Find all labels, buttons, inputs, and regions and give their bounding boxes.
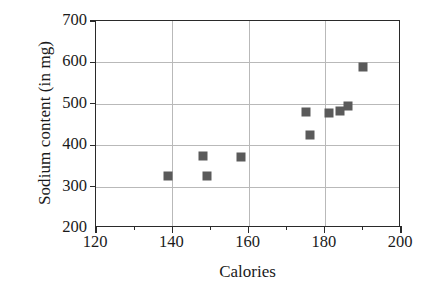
plot-area (95, 20, 400, 227)
x-axis-tick-label: 180 (311, 234, 336, 251)
data-point (358, 63, 367, 72)
x-axis-minor-tick (362, 226, 363, 230)
y-axis-tick-label: 400 (0, 136, 95, 153)
data-point (301, 108, 310, 117)
y-axis-tick-label: 700 (0, 12, 95, 29)
x-gridline (325, 21, 326, 226)
y-gridline (96, 187, 399, 188)
data-point (198, 151, 207, 160)
data-point (236, 152, 245, 161)
x-axis-minor-tick (134, 226, 135, 230)
data-point (305, 130, 314, 139)
x-gridline (172, 21, 173, 226)
y-gridline (96, 104, 399, 105)
scatter-plot-figure: Sodium content (in mg) Calories 20030040… (0, 0, 429, 299)
y-gridline (96, 62, 399, 63)
data-point (202, 172, 211, 181)
x-axis-tick-label: 140 (159, 234, 184, 251)
y-gridline (96, 145, 399, 146)
y-axis-tick-label: 600 (0, 53, 95, 70)
data-point (324, 108, 333, 117)
x-gridline (249, 21, 250, 226)
y-axis-tick-label: 500 (0, 95, 95, 112)
data-point (164, 172, 173, 181)
x-axis-minor-tick (286, 226, 287, 230)
x-axis-tick-label: 160 (235, 234, 260, 251)
x-axis-title: Calories (95, 262, 400, 282)
x-axis-minor-tick (210, 226, 211, 230)
x-axis-tick-label: 200 (388, 234, 413, 251)
data-point (343, 101, 352, 110)
x-axis-tick-label: 120 (83, 234, 108, 251)
y-axis-tick-label: 200 (0, 219, 95, 236)
y-axis-title: Sodium content (in mg) (35, 0, 55, 248)
y-axis-tick-label: 300 (0, 177, 95, 194)
